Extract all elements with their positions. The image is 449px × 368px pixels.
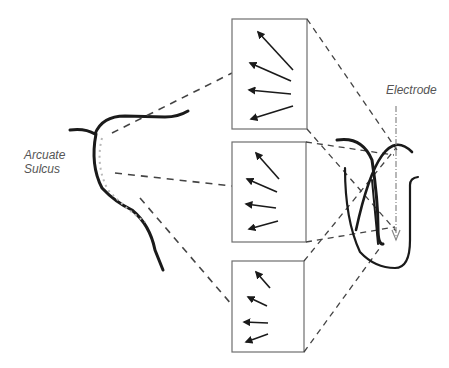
projection-lines-left (112, 73, 232, 305)
panel-bottom (232, 261, 304, 352)
diagram-canvas (0, 0, 449, 368)
electrode (392, 106, 400, 240)
arcuate-sulcus-shape (70, 111, 188, 270)
panel-top (232, 19, 307, 129)
projection-lines-right (304, 19, 397, 352)
arcuate-label-line1: Arcuate (24, 148, 65, 162)
panel-middle (232, 142, 306, 242)
sulcus-cross-section (337, 139, 418, 268)
arcuate-label-line2: Sulcus (24, 162, 65, 176)
electrode-label: Electrode (386, 83, 437, 97)
arcuate-sulcus-label: Arcuate Sulcus (24, 148, 65, 176)
